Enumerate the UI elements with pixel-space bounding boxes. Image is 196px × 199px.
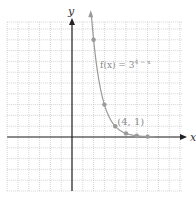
- data-point: [102, 102, 106, 106]
- y-axis-label: y: [67, 5, 75, 18]
- grid: [7, 22, 183, 191]
- data-point: [135, 134, 139, 138]
- function-label-base: f(x) = 3: [100, 60, 135, 70]
- function-graph: x y f(x) = 34 − x (4, 1): [0, 0, 196, 199]
- data-point: [145, 134, 149, 138]
- point-label: (4, 1): [117, 116, 144, 127]
- x-axis-arrow-icon: [180, 134, 187, 140]
- function-label-exponent: 4 − x: [135, 58, 152, 65]
- function-label: f(x) = 34 − x: [100, 58, 151, 70]
- x-axis-label: x: [190, 131, 196, 144]
- curve-arrow-icon: [88, 10, 93, 17]
- data-point: [124, 131, 128, 135]
- y-axis-arrow-icon: [69, 18, 75, 25]
- data-point: [91, 38, 95, 42]
